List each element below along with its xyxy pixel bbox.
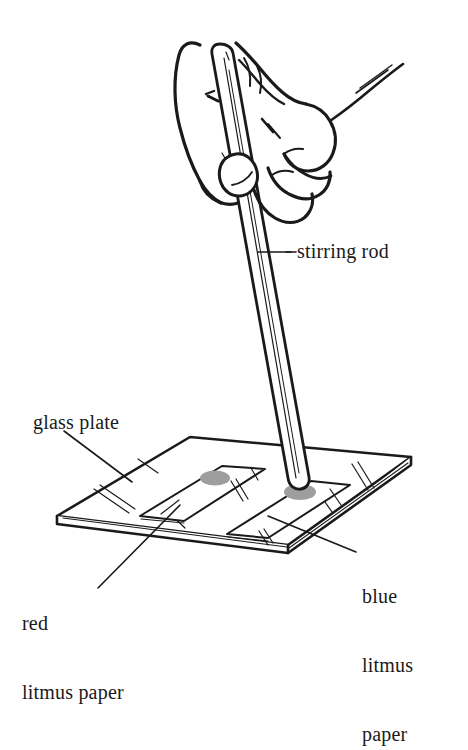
label-red-litmus-paper: red litmus paper bbox=[22, 566, 124, 727]
label-blue-litmus-line-3: paper bbox=[362, 723, 413, 746]
label-red-litmus-line-2: litmus paper bbox=[22, 681, 124, 704]
label-blue-litmus-paper: blue litmus paper bbox=[362, 539, 413, 750]
red-litmus-spot bbox=[200, 471, 230, 486]
stirring-rod bbox=[212, 44, 309, 489]
hand bbox=[175, 43, 403, 223]
label-blue-litmus-line-1: blue bbox=[362, 585, 413, 608]
label-glass-plate: glass plate bbox=[33, 411, 119, 434]
leader-line-glass-plate bbox=[64, 431, 132, 482]
label-red-litmus-line-1: red bbox=[22, 612, 124, 635]
label-stirring-rod: stirring rod bbox=[297, 240, 389, 263]
label-blue-litmus-line-2: litmus bbox=[362, 654, 413, 677]
